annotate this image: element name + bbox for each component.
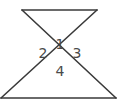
transversal-b <box>1 10 97 98</box>
angle-label-1: 1 <box>56 36 65 52</box>
angle-diagram: 1 2 3 4 <box>0 0 117 106</box>
angle-label-4: 4 <box>56 63 65 79</box>
angle-label-2: 2 <box>39 45 48 61</box>
angle-label-3: 3 <box>73 45 82 61</box>
transversal-a <box>22 10 116 98</box>
